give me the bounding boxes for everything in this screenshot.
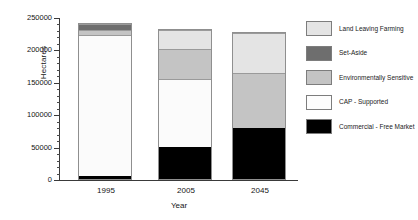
y-tick-major (54, 50, 60, 51)
legend-item[interactable]: Commercial - Free Market (306, 116, 414, 137)
legend-swatch (306, 70, 332, 85)
y-tick-minor (57, 31, 61, 32)
legend-swatch (306, 21, 332, 36)
x-axis-title: Year (60, 201, 298, 210)
y-tick-minor (57, 96, 61, 97)
y-tick-minor (57, 161, 61, 162)
bar-2005[interactable]: 2005 (158, 29, 212, 180)
legend-item[interactable]: CAP - Supported (306, 92, 414, 113)
legend-item[interactable]: Environmentally Sensitive (306, 67, 414, 88)
y-tick-label: 100000 (27, 111, 52, 119)
y-tick-major (54, 18, 60, 19)
legend-label: Commercial - Free Market (339, 123, 414, 131)
y-tick-major (54, 83, 60, 84)
y-tick-minor (57, 63, 61, 64)
y-tick-minor (57, 141, 61, 142)
y-tick-label: 150000 (27, 79, 52, 87)
bar-2045[interactable]: 2045 (232, 32, 286, 180)
y-tick-major (54, 115, 60, 116)
plot-area: 050000100000150000200000250000 199520052… (60, 18, 298, 180)
legend-label: Set-Aside (339, 49, 367, 57)
chart-legend: Land Leaving FarmingSet-AsideEnvironment… (306, 18, 414, 141)
y-tick-minor (57, 128, 61, 129)
y-tick-label: 200000 (27, 47, 52, 55)
bar-segment (159, 147, 211, 179)
legend-item[interactable]: Land Leaving Farming (306, 18, 414, 39)
x-axis-line (59, 180, 298, 181)
legend-label: Land Leaving Farming (339, 25, 404, 33)
stacked-bar-chart: Hectares 050000100000150000200000250000 … (0, 0, 418, 220)
y-tick-minor (57, 24, 61, 25)
y-tick-minor (57, 135, 61, 136)
y-tick-major (54, 148, 60, 149)
y-tick-label: 250000 (27, 14, 52, 22)
y-tick-minor (57, 89, 61, 90)
legend-label: CAP - Supported (339, 98, 388, 106)
y-tick-minor (57, 76, 61, 77)
y-tick-minor (57, 109, 61, 110)
y-tick-minor (57, 37, 61, 38)
y-tick-minor (57, 44, 61, 45)
y-axis-line (59, 18, 60, 181)
y-tick-minor (57, 70, 61, 71)
legend-swatch (306, 119, 332, 134)
y-tick-minor (57, 57, 61, 58)
y-tick-label: 50000 (31, 144, 52, 152)
legend-item[interactable]: Set-Aside (306, 43, 414, 64)
bar-segment (233, 128, 285, 179)
legend-swatch (306, 46, 332, 61)
legend-swatch (306, 95, 332, 110)
y-tick-minor (57, 154, 61, 155)
bar-1995[interactable]: 1995 (78, 23, 132, 180)
bar-segment (159, 79, 211, 147)
bar-segment (79, 35, 131, 176)
x-tick-label: 2005 (146, 186, 226, 195)
y-tick-minor (57, 167, 61, 168)
x-tick-label: 1995 (66, 186, 146, 195)
y-tick-minor (57, 102, 61, 103)
x-tick-label: 2045 (220, 186, 300, 195)
legend-label: Environmentally Sensitive (339, 74, 413, 82)
y-tick-label: 0 (48, 176, 52, 184)
bar-segment (159, 49, 211, 78)
y-tick-minor (57, 174, 61, 175)
bar-segment (233, 33, 285, 73)
y-tick-minor (57, 122, 61, 123)
y-axis-title: Hectares (39, 18, 48, 108)
bar-segment (233, 73, 285, 128)
bar-segment (159, 30, 211, 49)
bar-segment (79, 176, 131, 179)
y-tick-major (54, 180, 60, 181)
